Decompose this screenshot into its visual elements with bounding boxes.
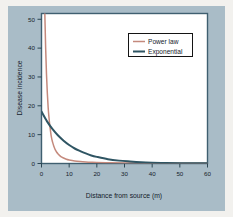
x-tick-label: 20 xyxy=(93,170,100,177)
y-tick-label: 30 xyxy=(28,73,35,80)
x-tick-label: 0 xyxy=(40,170,44,177)
y-tick-label: 50 xyxy=(28,16,35,23)
x-tick-label: 30 xyxy=(121,170,128,177)
x-axis-title: Distance from source (m) xyxy=(86,192,162,200)
x-axis-tick-labels: 0102030405060 xyxy=(40,170,212,177)
chart-svg: 01020304050 0102030405060 Distance from … xyxy=(0,0,233,217)
x-tick-label: 50 xyxy=(176,170,183,177)
chart-legend: Power lawExponential xyxy=(129,34,193,57)
y-tick-label: 40 xyxy=(28,44,35,51)
y-axis-tick-labels: 01020304050 xyxy=(28,16,35,167)
y-tick-label: 0 xyxy=(32,160,36,167)
legend-label-exponential: Exponential xyxy=(148,48,183,56)
y-tick-label: 20 xyxy=(28,102,35,109)
x-tick-label: 60 xyxy=(204,170,211,177)
x-tick-label: 10 xyxy=(66,170,73,177)
legend-label-power-law: Power law xyxy=(148,38,179,45)
y-axis-title: Disease incidence xyxy=(16,60,23,115)
x-tick-label: 40 xyxy=(149,170,156,177)
figure-root: 01020304050 0102030405060 Distance from … xyxy=(0,0,233,217)
y-tick-label: 10 xyxy=(28,131,35,138)
